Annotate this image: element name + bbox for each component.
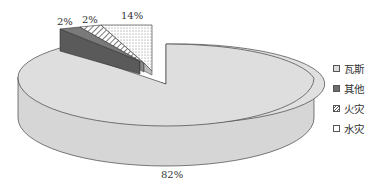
legend-label: 水灾: [344, 121, 364, 136]
label-flood: 14%: [121, 10, 143, 21]
swatch-fire-icon: [333, 105, 340, 112]
pie-chart: [0, 0, 389, 192]
legend: 瓦斯 其他 火灾 水灾: [333, 58, 364, 138]
swatch-flood-icon: [333, 125, 340, 132]
swatch-other-icon: [333, 85, 340, 92]
label-other: 2%: [57, 16, 73, 27]
legend-label: 其他: [344, 81, 364, 96]
label-gas: 82%: [161, 169, 183, 180]
legend-label: 火灾: [344, 101, 364, 116]
legend-item-gas: 瓦斯: [333, 58, 364, 78]
swatch-gas-icon: [333, 65, 340, 72]
legend-item-fire: 火灾: [333, 98, 364, 118]
label-fire: 2%: [82, 14, 98, 25]
legend-item-other: 其他: [333, 78, 364, 98]
slice-gas: [18, 44, 325, 166]
legend-item-flood: 水灾: [333, 118, 364, 138]
legend-label: 瓦斯: [344, 61, 364, 76]
